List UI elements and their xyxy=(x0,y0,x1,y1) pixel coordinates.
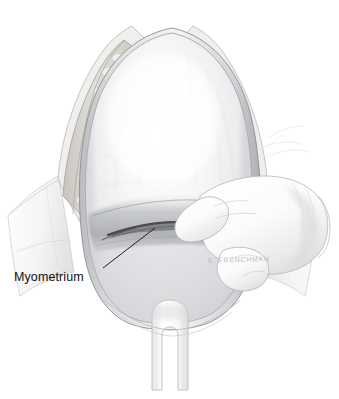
illustration-canvas xyxy=(0,0,339,399)
medical-illustration-figure: Myometrium E. FRENCHMAN xyxy=(0,0,339,399)
myometrium-label: Myometrium xyxy=(14,270,84,284)
